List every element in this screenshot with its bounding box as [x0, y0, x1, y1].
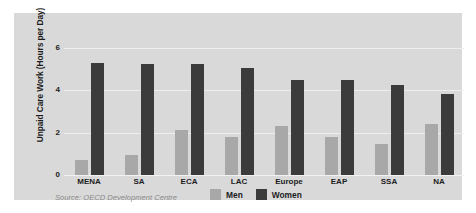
x-axis-ticks: MENASAECALACEuropeEAPSSANA: [64, 177, 464, 186]
legend-label-women: Women: [272, 190, 302, 200]
bar-men-eca: [175, 130, 188, 175]
x-tick-label: SSA: [364, 177, 414, 186]
bar-men-ssa: [375, 144, 388, 175]
bar-group: [64, 35, 114, 175]
legend-swatch-women: [256, 189, 267, 200]
bar-group: [164, 35, 214, 175]
x-tick-label: EAP: [314, 177, 364, 186]
chart-figure: Unpaid Care Work (Hours per Day) 0246 ME…: [0, 0, 476, 213]
bar-women-europe: [291, 80, 304, 175]
bar-men-lac: [225, 137, 238, 175]
bar-men-sa: [125, 155, 138, 175]
bar-group: [114, 35, 164, 175]
bar-men-na: [425, 124, 438, 175]
bar-group: [414, 35, 464, 175]
bar-group: [364, 35, 414, 175]
bar-women-sa: [141, 64, 154, 175]
bar-group: [264, 35, 314, 175]
bar-men-mena: [75, 160, 88, 175]
y-tick-label: 4: [40, 85, 60, 94]
x-tick-label: Europe: [264, 177, 314, 186]
legend-item-men: Men: [210, 189, 243, 200]
bar-women-mena: [91, 63, 104, 175]
bar-groups: [64, 35, 464, 175]
x-tick-label: SA: [114, 177, 164, 186]
legend-label-men: Men: [226, 190, 243, 200]
bar-group: [314, 35, 364, 175]
x-tick-label: ECA: [164, 177, 214, 186]
x-tick-label: MENA: [64, 177, 114, 186]
gridline: [64, 175, 464, 176]
bar-women-ssa: [391, 85, 404, 175]
bar-group: [214, 35, 264, 175]
y-tick-label: 6: [40, 43, 60, 52]
y-tick-label: 0: [40, 170, 60, 179]
legend-swatch-men: [210, 189, 221, 200]
chart-panel: Unpaid Care Work (Hours per Day) 0246 ME…: [14, 13, 462, 200]
y-tick-label: 2: [40, 128, 60, 137]
chart-legend: Men Women: [210, 189, 302, 200]
plot-area: 0246: [52, 35, 464, 175]
bar-men-eap: [325, 137, 338, 175]
bar-women-eap: [341, 80, 354, 175]
bar-men-europe: [275, 126, 288, 175]
legend-item-women: Women: [256, 189, 302, 200]
bar-women-eca: [191, 64, 204, 175]
source-note: Source: OECD Development Centre: [55, 193, 177, 202]
x-tick-label: LAC: [214, 177, 264, 186]
bar-women-na: [441, 94, 454, 175]
x-tick-label: NA: [414, 177, 464, 186]
bar-women-lac: [241, 68, 254, 175]
